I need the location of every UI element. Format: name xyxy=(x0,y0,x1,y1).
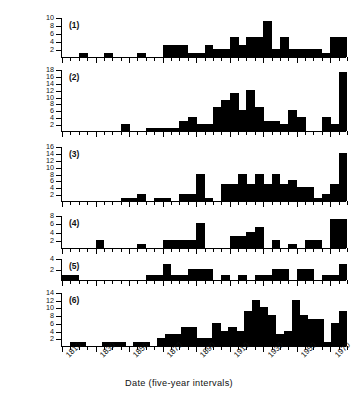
plot-area-1: (1)246810 xyxy=(61,18,346,58)
y-tick xyxy=(56,104,62,105)
bar xyxy=(196,223,205,248)
panel-2: (2)24681012141618 xyxy=(61,70,346,132)
x-tick xyxy=(70,280,71,284)
bar xyxy=(70,275,79,281)
bar xyxy=(313,240,322,248)
x-tick xyxy=(238,248,239,252)
x-tick xyxy=(104,201,105,205)
panel-4: (4)2468 xyxy=(61,216,346,249)
x-tick xyxy=(230,57,231,63)
x-tick xyxy=(339,248,340,252)
x-tick xyxy=(205,201,206,205)
bar xyxy=(163,198,172,201)
bar xyxy=(339,72,348,131)
y-tick xyxy=(56,42,62,43)
x-tick xyxy=(246,201,247,205)
x-tick xyxy=(79,280,80,284)
x-tick xyxy=(179,201,180,205)
y-tick-label: 2 xyxy=(50,266,54,273)
x-tick xyxy=(129,131,130,137)
x-tick xyxy=(87,280,88,284)
x-tick xyxy=(121,346,122,350)
x-tick xyxy=(330,201,331,207)
x-tick xyxy=(339,57,340,61)
y-tick xyxy=(56,332,62,333)
x-tick xyxy=(196,248,197,254)
x-tick xyxy=(213,280,214,284)
x-tick xyxy=(137,248,138,252)
y-tick-label: 2 xyxy=(50,237,54,244)
x-tick xyxy=(163,280,164,286)
y-tick-label: 8 xyxy=(50,212,54,219)
y-tick-label: 18 xyxy=(46,66,54,73)
x-tick xyxy=(263,346,264,352)
bar xyxy=(288,244,297,248)
x-tick xyxy=(339,201,340,205)
y-tick xyxy=(56,270,62,271)
plot-area-3: (3)246810121416 xyxy=(61,147,346,202)
x-tick xyxy=(129,201,130,207)
x-tick xyxy=(330,346,331,352)
x-tick xyxy=(205,280,206,284)
x-tick xyxy=(221,131,222,135)
x-tick xyxy=(305,201,306,205)
bar xyxy=(280,269,289,280)
x-tick xyxy=(163,201,164,207)
bar xyxy=(137,53,146,57)
x-tick xyxy=(339,131,340,135)
y-tick xyxy=(56,91,62,92)
x-tick xyxy=(163,131,164,137)
x-tick xyxy=(121,280,122,284)
x-tick xyxy=(171,248,172,252)
x-tick xyxy=(62,280,63,286)
panel-3: (3)246810121416 xyxy=(61,147,346,202)
x-tick xyxy=(146,248,147,252)
x-tick xyxy=(70,131,71,135)
panel-5: (5)24 xyxy=(61,259,346,281)
panel-1: (1)246810 xyxy=(61,18,346,58)
x-tick xyxy=(322,201,323,205)
y-tick xyxy=(56,34,62,35)
bar xyxy=(137,194,146,201)
x-tick xyxy=(272,280,273,284)
x-tick xyxy=(129,280,130,286)
x-tick xyxy=(297,280,298,286)
y-tick xyxy=(56,224,62,225)
x-tick xyxy=(104,248,105,252)
bar xyxy=(305,269,314,280)
x-tick xyxy=(104,280,105,284)
x-tick xyxy=(288,346,289,350)
x-tick xyxy=(146,131,147,135)
x-tick xyxy=(171,280,172,284)
panel-label-2: (2) xyxy=(69,72,79,82)
y-tick xyxy=(56,339,62,340)
x-tick xyxy=(255,57,256,61)
y-tick xyxy=(56,154,62,155)
x-tick xyxy=(196,346,197,352)
x-tick xyxy=(62,57,63,63)
x-tick xyxy=(179,131,180,135)
panel-label-6: (6) xyxy=(69,295,79,305)
x-tick xyxy=(288,280,289,284)
bar xyxy=(104,53,113,57)
x-tick xyxy=(112,201,113,205)
x-tick xyxy=(129,248,130,254)
x-tick xyxy=(62,346,63,352)
bar xyxy=(205,269,214,280)
panel-label-1: (1) xyxy=(69,20,79,30)
bar xyxy=(272,240,281,248)
x-tick xyxy=(246,131,247,135)
bar xyxy=(117,342,125,346)
x-tick xyxy=(280,131,281,135)
y-tick-label: 10 xyxy=(46,305,54,312)
x-tick xyxy=(280,280,281,284)
y-tick-label: 4 xyxy=(50,38,54,45)
x-tick xyxy=(305,57,306,61)
panel-label-3: (3) xyxy=(69,149,79,159)
x-tick xyxy=(246,280,247,284)
x-tick xyxy=(297,57,298,63)
y-tick xyxy=(56,195,62,196)
x-tick xyxy=(196,57,197,63)
x-tick xyxy=(154,201,155,205)
x-tick xyxy=(62,248,63,254)
